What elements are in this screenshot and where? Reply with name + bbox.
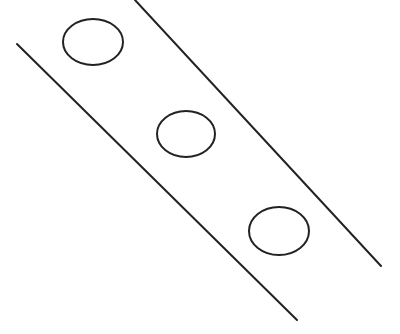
diagram-canvas xyxy=(0,0,400,334)
ellipse-2 xyxy=(157,111,215,157)
ellipse-3 xyxy=(249,207,309,255)
left-boundary-line xyxy=(17,44,297,320)
right-boundary-line xyxy=(135,0,381,266)
ellipse-1 xyxy=(63,19,123,65)
diagram-svg xyxy=(0,0,400,334)
